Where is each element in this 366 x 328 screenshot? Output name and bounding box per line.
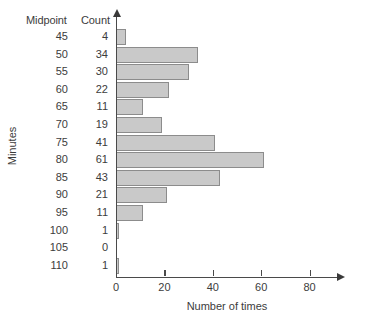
- x-axis-arrow-icon: [337, 273, 345, 281]
- x-axis-tick-label: 20: [144, 281, 184, 293]
- bar: [116, 29, 126, 45]
- bar: [116, 152, 264, 168]
- x-axis-tick-label: 60: [241, 281, 281, 293]
- x-axis-tick: [213, 270, 214, 276]
- plot-area: 020406080 Number of times: [0, 0, 366, 328]
- bar: [116, 170, 220, 186]
- bar: [116, 187, 167, 203]
- x-axis-tick-label: 0: [96, 281, 136, 293]
- bar: [116, 135, 215, 151]
- bar: [116, 64, 189, 80]
- y-axis-arrow-icon: [113, 9, 121, 17]
- bar: [116, 82, 169, 98]
- x-axis-tick-label: 40: [193, 281, 233, 293]
- x-axis-tick: [310, 270, 311, 276]
- histogram-figure: Midpoint Count 4545034553060226511701975…: [0, 0, 366, 328]
- x-axis-tick: [164, 270, 165, 276]
- x-axis-title: Number of times: [116, 300, 338, 312]
- x-axis-line: [116, 277, 338, 278]
- bar: [116, 47, 198, 63]
- x-axis-tick: [261, 270, 262, 276]
- bar: [116, 117, 162, 133]
- bar: [116, 205, 143, 221]
- y-axis-line: [116, 16, 117, 278]
- bar: [116, 99, 143, 115]
- x-axis-tick-label: 80: [290, 281, 330, 293]
